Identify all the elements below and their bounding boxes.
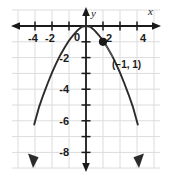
y-tick-label--6: -6 [59,115,69,127]
plotted-point[interactable] [99,38,107,46]
graph-figure: x y -4 -2 2 4 0 -2 -4 -6 -8 (−1, 1) [0,0,172,179]
x-axis-label: x [147,5,153,17]
x-tick-label--4: -4 [28,32,39,44]
coordinate-plane-svg: x y -4 -2 2 4 0 -2 -4 -6 -8 (−1, 1) [0,0,172,179]
y-tick-label--8: -8 [59,146,69,158]
y-axis-label: y [90,7,96,19]
y-tick-label--4: -4 [59,83,70,95]
point-label: (−1, 1) [112,59,141,70]
x-tick-label--2: -2 [45,32,55,44]
x-tick-label-4: 4 [140,32,147,44]
